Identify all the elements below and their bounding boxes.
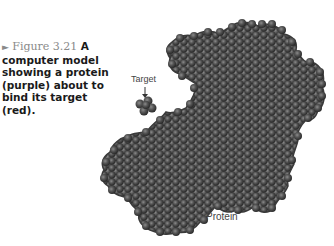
target-pointer-arrow-icon — [142, 87, 148, 98]
protein-molecule — [100, 19, 326, 236]
target-molecule — [136, 97, 157, 116]
target-label: Target — [131, 74, 156, 84]
protein-model-illustration — [0, 0, 334, 246]
protein-label: Protein — [206, 211, 238, 222]
